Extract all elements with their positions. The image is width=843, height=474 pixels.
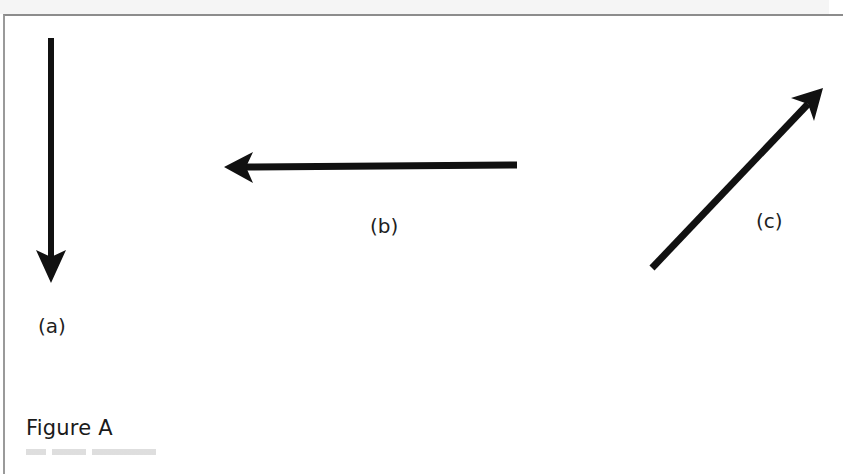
figure-title: Figure A xyxy=(26,416,113,440)
arrow-b-left xyxy=(224,152,517,183)
arrow-c-up-right xyxy=(652,88,823,268)
label-c: (c) xyxy=(756,211,783,231)
cropped-caption-line xyxy=(26,449,156,455)
arrow-a-down xyxy=(36,38,66,283)
label-b: (b) xyxy=(370,216,398,236)
label-a: (a) xyxy=(38,316,66,336)
